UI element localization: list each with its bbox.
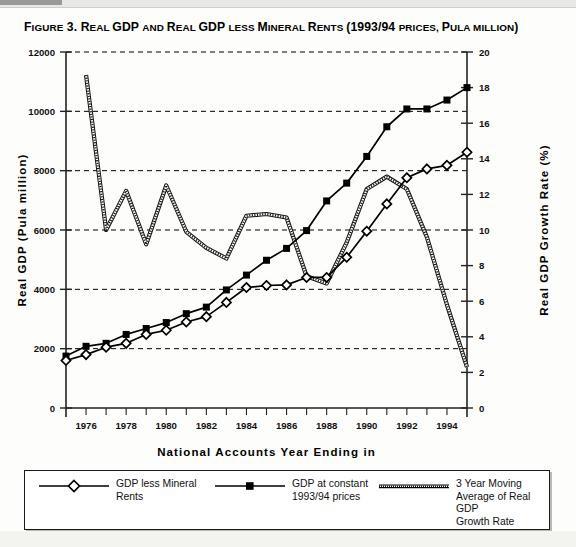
svg-text:6000: 6000	[34, 225, 55, 236]
svg-text:4000: 4000	[34, 284, 55, 295]
scan-edge-bottom	[0, 531, 576, 547]
svg-text:Real GDP Growth Rate (%): Real GDP Growth Rate (%)	[538, 144, 550, 315]
svg-text:1980: 1980	[156, 420, 177, 431]
legend-item-gdp-less-mineral: GDP less Mineral Rents	[37, 478, 197, 503]
figure-page: FIGURE 3. REAL GDP AND REAL GDP LESS MIN…	[0, 0, 576, 547]
svg-text:16: 16	[479, 118, 490, 129]
legend-item-growth-rate: 3 Year Moving Average of Real GDP Growth…	[377, 478, 549, 528]
svg-text:0: 0	[50, 403, 55, 414]
svg-text:1986: 1986	[276, 420, 297, 431]
svg-text:1984: 1984	[236, 420, 258, 431]
svg-text:20: 20	[479, 47, 490, 58]
svg-text:1982: 1982	[196, 420, 217, 431]
svg-text:14: 14	[479, 153, 490, 164]
hatched-line-icon	[377, 479, 451, 493]
legend-item-gdp-constant: GDP at constant 1993/94 prices	[213, 478, 368, 503]
scan-edge-top	[0, 0, 576, 8]
gridlines	[66, 52, 467, 349]
svg-text:10000: 10000	[28, 106, 55, 117]
svg-text:6: 6	[479, 296, 484, 307]
svg-text:1988: 1988	[316, 420, 338, 431]
svg-text:1992: 1992	[396, 420, 417, 431]
svg-text:2: 2	[479, 367, 484, 378]
svg-text:Real GDP (Pula million): Real GDP (Pula million)	[16, 154, 28, 307]
legend-item-label: GDP at constant 1993/94 prices	[292, 478, 368, 503]
diamond-marker-icon	[37, 479, 111, 493]
svg-text:4: 4	[479, 331, 485, 342]
svg-text:1990: 1990	[356, 420, 377, 431]
svg-text:National Accounts Year Ending: National Accounts Year Ending in	[157, 446, 376, 458]
scan-corner-artifact	[0, 0, 62, 5]
svg-text:8: 8	[479, 260, 485, 271]
svg-text:10: 10	[479, 225, 490, 236]
square-marker-icon	[213, 479, 287, 493]
svg-text:12000: 12000	[28, 47, 55, 58]
svg-text:12: 12	[479, 189, 490, 200]
page-title: FIGURE 3. REAL GDP AND REAL GDP LESS MIN…	[24, 20, 558, 34]
svg-text:18: 18	[479, 82, 490, 93]
svg-text:1994: 1994	[436, 420, 458, 431]
legend-item-label: 3 Year Moving Average of Real GDP Growth…	[456, 478, 549, 528]
x-axis-ticks: 1976197819801982198419861988199019921994	[66, 408, 467, 431]
series-growth-rate	[86, 75, 467, 367]
gdp-line-chart: 1976197819801982198419861988199019921994…	[0, 38, 576, 458]
legend-item-label: GDP less Mineral Rents	[116, 478, 197, 503]
chart-canvas: 1976197819801982198419861988199019921994…	[0, 38, 576, 458]
svg-text:1978: 1978	[115, 420, 137, 431]
svg-text:1976: 1976	[75, 420, 96, 431]
legend: GDP less Mineral Rents GDP at constant 1…	[24, 470, 550, 530]
series-gdp-constant	[63, 84, 471, 359]
svg-text:0: 0	[479, 403, 484, 414]
svg-text:2000: 2000	[34, 343, 55, 354]
svg-text:8000: 8000	[34, 165, 55, 176]
